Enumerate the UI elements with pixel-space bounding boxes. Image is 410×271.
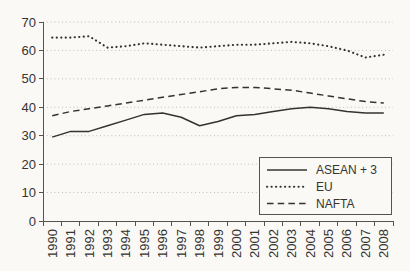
x-tick-label: 1993	[100, 229, 115, 258]
y-tick-label: 10	[22, 185, 36, 200]
y-tick-label: 70	[22, 15, 36, 30]
legend-label-eu: EU	[316, 180, 333, 194]
y-tick-label: 50	[22, 71, 36, 86]
legend: ASEAN + 3EUNAFTA	[260, 158, 392, 215]
y-axis-ticks: 010203040506070	[22, 15, 43, 229]
x-axis-ticks	[43, 221, 393, 226]
x-tick-label: 1997	[174, 229, 189, 258]
x-tick-label: 1995	[137, 229, 152, 258]
x-tick-label: 2001	[247, 229, 262, 258]
x-tick-label: 2000	[229, 229, 244, 258]
trade-share-line-chart-figure: 0102030405060701990199119921993199419951…	[0, 0, 410, 271]
y-tick-label: 20	[22, 157, 36, 172]
x-tick-label: 1994	[118, 229, 133, 258]
x-axis-labels: 1990199119921993199419951996199719981999…	[45, 229, 392, 258]
x-tick-label: 2004	[303, 229, 318, 258]
x-tick-label: 1990	[45, 229, 60, 258]
series-line-nafta	[52, 87, 384, 115]
x-tick-label: 2008	[376, 229, 391, 258]
y-tick-label: 0	[29, 214, 36, 229]
x-tick-label: 1996	[155, 229, 170, 258]
x-tick-label: 1992	[82, 229, 97, 258]
x-tick-label: 1998	[192, 229, 207, 258]
x-tick-label: 2003	[284, 229, 299, 258]
series-line-eu	[52, 36, 384, 57]
x-tick-label: 2005	[321, 229, 336, 258]
y-tick-label: 40	[22, 100, 36, 115]
x-tick-label: 1999	[211, 229, 226, 258]
x-tick-label: 2007	[358, 229, 373, 258]
legend-label-asean-3: ASEAN + 3	[316, 163, 377, 177]
line-chart: 0102030405060701990199119921993199419951…	[0, 0, 410, 271]
y-tick-label: 30	[22, 128, 36, 143]
x-tick-label: 1991	[63, 229, 78, 258]
x-tick-label: 2002	[266, 229, 281, 258]
legend-label-nafta: NAFTA	[316, 197, 354, 211]
series-line-asean-3	[52, 107, 384, 137]
y-tick-label: 60	[22, 43, 36, 58]
x-tick-label: 2006	[339, 229, 354, 258]
